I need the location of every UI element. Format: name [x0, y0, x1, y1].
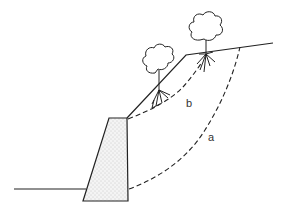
tree-lower — [143, 44, 174, 108]
slip-surface-b — [128, 62, 202, 119]
slip-surface-a — [129, 47, 240, 189]
label-b: b — [186, 97, 192, 109]
slope-retaining-wall-diagram: b a — [0, 0, 284, 212]
retaining-wall — [83, 118, 128, 201]
tree-upper — [189, 12, 222, 72]
label-a: a — [208, 131, 215, 143]
